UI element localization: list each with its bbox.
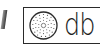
speaker-grille-icon — [29, 11, 58, 40]
decibel-label: db — [64, 7, 95, 43]
toolbar-fragment: db — [0, 0, 100, 50]
partial-glyph-icon — [1, 10, 8, 29]
